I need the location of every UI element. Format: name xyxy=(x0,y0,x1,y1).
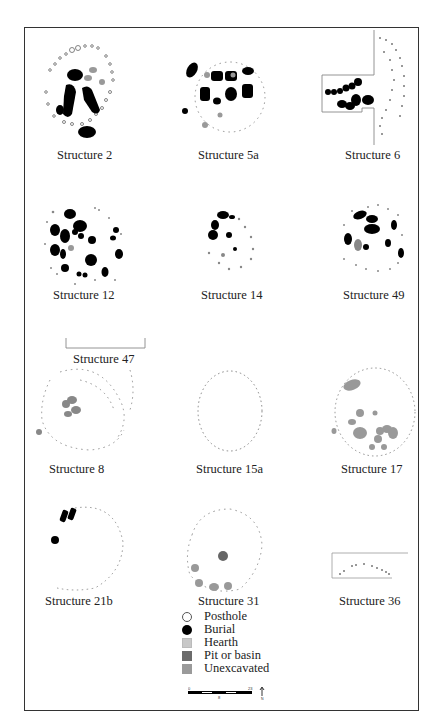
unexcavated-swatch-icon xyxy=(182,664,192,674)
structure-31-plan xyxy=(180,505,280,595)
structure-6-plan xyxy=(318,30,418,145)
structure-15a-label: Structure 15a xyxy=(196,462,263,477)
structure-2-plan xyxy=(30,40,140,150)
north-arrow-icon xyxy=(260,687,264,696)
structure-21b-label: Structure 21b xyxy=(45,594,113,609)
structure-17-plan xyxy=(330,365,420,460)
svg-text:23: 23 xyxy=(248,686,253,691)
structure-47-bracket xyxy=(65,338,147,350)
structure-8-plan xyxy=(30,360,150,460)
structure-21b-plan xyxy=(45,502,145,592)
structure-5a-plan xyxy=(175,55,285,140)
posthole-swatch-icon xyxy=(182,612,192,622)
legend-item-unexcavated: Unexcavated xyxy=(182,662,269,675)
legend: Posthole Burial Hearth Pit or basin Unex… xyxy=(182,610,269,675)
structure-49-label: Structure 49 xyxy=(343,288,404,303)
structure-17-label: Structure 17 xyxy=(341,462,402,477)
structure-49-plan xyxy=(338,203,418,283)
structure-5a-label: Structure 5a xyxy=(198,148,259,163)
structure-12-label: Structure 12 xyxy=(53,288,114,303)
structure-31-label: Structure 31 xyxy=(198,594,259,609)
structure-36-plan xyxy=(332,550,412,580)
burial-swatch-icon xyxy=(182,625,192,635)
pit-swatch-icon xyxy=(182,651,192,661)
structure-36-label: Structure 36 xyxy=(339,594,400,609)
svg-text:N: N xyxy=(261,697,264,701)
structure-15a-plan xyxy=(185,365,275,460)
svg-text:0: 0 xyxy=(188,686,191,691)
structure-12-plan xyxy=(35,200,145,285)
hearth-swatch-icon xyxy=(182,638,192,648)
scale-bar: 0 8 23 N xyxy=(188,686,276,702)
structure-6-label: Structure 6 xyxy=(345,148,400,163)
structure-2-label: Structure 2 xyxy=(57,148,112,163)
structure-14-label: Structure 14 xyxy=(201,288,262,303)
svg-text:8: 8 xyxy=(218,695,221,700)
structure-8-label: Structure 8 xyxy=(49,462,104,477)
structure-14-plan xyxy=(195,205,275,285)
